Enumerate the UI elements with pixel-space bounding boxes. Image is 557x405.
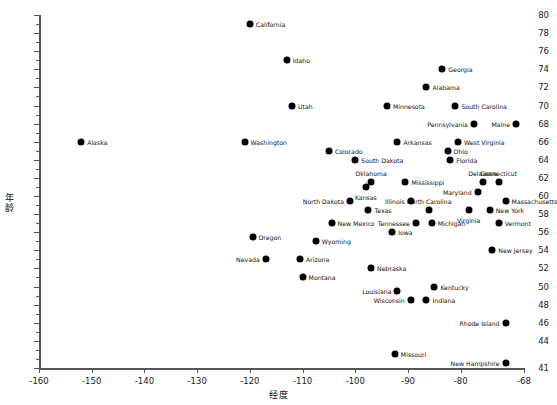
- scatter-point[interactable]: [495, 220, 502, 227]
- scatter-point[interactable]: [299, 274, 306, 281]
- y-tick-label: 54: [538, 245, 549, 255]
- scatter-point-label: Maine: [492, 120, 511, 127]
- scatter-point-label: South Carolina: [461, 102, 506, 109]
- x-tick-label: -90: [401, 376, 415, 386]
- scatter-point[interactable]: [502, 360, 509, 367]
- scatter-point[interactable]: [362, 183, 369, 190]
- scatter-point-label: New Hampshire: [451, 360, 500, 367]
- scatter-point[interactable]: [447, 156, 454, 163]
- scatter-point[interactable]: [328, 220, 335, 227]
- scatter-point-label: Ohio: [454, 147, 468, 154]
- scatter-point[interactable]: [502, 319, 509, 326]
- scatter-point[interactable]: [470, 120, 477, 127]
- scatter-point[interactable]: [439, 66, 446, 73]
- y-tick-label: 78: [538, 28, 549, 38]
- scatter-point[interactable]: [246, 21, 253, 28]
- scatter-point[interactable]: [383, 102, 390, 109]
- y-tick-label: 48: [538, 300, 549, 310]
- scatter-point[interactable]: [452, 102, 459, 109]
- scatter-point[interactable]: [407, 297, 414, 304]
- scatter-point[interactable]: [455, 138, 462, 145]
- scatter-point-label: Illinois: [385, 197, 405, 204]
- x-tick: [250, 368, 251, 373]
- scatter-point-label: Rhode Island: [459, 319, 499, 326]
- scatter-point-label: Arizona: [306, 256, 329, 263]
- scatter-point-label: Missouri: [401, 351, 426, 358]
- x-tick: [92, 368, 93, 373]
- scatter-point[interactable]: [428, 220, 435, 227]
- scatter-point[interactable]: [365, 206, 372, 213]
- scatter-point[interactable]: [241, 138, 248, 145]
- scatter-point[interactable]: [495, 179, 502, 186]
- scatter-point[interactable]: [389, 229, 396, 236]
- scatter-point[interactable]: [312, 238, 319, 245]
- x-axis-title: 经度: [0, 388, 557, 401]
- x-tick: [197, 368, 198, 373]
- y-tick-label: 66: [538, 137, 549, 147]
- x-tick-label: -80: [454, 376, 468, 386]
- scatter-point-label: California: [256, 21, 285, 28]
- scatter-point[interactable]: [486, 206, 493, 213]
- scatter-point-label: Kansas: [355, 194, 377, 201]
- scatter-point[interactable]: [431, 283, 438, 290]
- y-tick-label: 64: [538, 155, 549, 165]
- x-tick-label: -160: [29, 376, 48, 386]
- scatter-point[interactable]: [394, 288, 401, 295]
- scatter-point[interactable]: [289, 102, 296, 109]
- scatter-point[interactable]: [368, 265, 375, 272]
- x-axis-line: [39, 368, 525, 370]
- scatter-point[interactable]: [412, 220, 419, 227]
- scatter-point[interactable]: [444, 147, 451, 154]
- scatter-point[interactable]: [474, 188, 481, 195]
- scatter-point-label: Oklahoma: [355, 170, 387, 177]
- scatter-point[interactable]: [479, 179, 486, 186]
- scatter-point-label: Indiana: [432, 297, 455, 304]
- scatter-point-label: Nebraska: [377, 265, 406, 272]
- scatter-point-label: South Dakota: [361, 156, 403, 163]
- y-tick-label: 56: [538, 227, 549, 237]
- scatter-point[interactable]: [352, 156, 359, 163]
- scatter-point[interactable]: [262, 256, 269, 263]
- scatter-point[interactable]: [426, 206, 433, 213]
- scatter-point-label: Georgia: [448, 66, 472, 73]
- y-tick-label: 70: [538, 101, 549, 111]
- scatter-point[interactable]: [502, 197, 509, 204]
- scatter-point[interactable]: [283, 57, 290, 64]
- scatter-point-label: North Dakota: [303, 197, 344, 204]
- x-tick-label: -140: [135, 376, 154, 386]
- scatter-point[interactable]: [489, 247, 496, 254]
- scatter-point-label: Montana: [309, 274, 336, 281]
- scatter-point[interactable]: [249, 233, 256, 240]
- x-tick: [461, 368, 462, 373]
- scatter-point-label: New Jersey: [498, 247, 532, 254]
- scatter-point[interactable]: [423, 297, 430, 304]
- scatter-point-label: Alabama: [432, 84, 459, 91]
- scatter-point-label: Arkansas: [403, 138, 431, 145]
- y-tick-label: 41: [538, 363, 549, 373]
- scatter-point[interactable]: [402, 179, 409, 186]
- y-tick-label: 58: [538, 209, 549, 219]
- scatter-point[interactable]: [513, 120, 520, 127]
- scatter-point[interactable]: [391, 351, 398, 358]
- y-tick-label: 68: [538, 119, 549, 129]
- x-tick: [408, 368, 409, 373]
- scatter-point[interactable]: [78, 138, 85, 145]
- scatter-point[interactable]: [347, 197, 354, 204]
- x-tick-label: -68: [517, 376, 531, 386]
- scatter-point[interactable]: [465, 206, 472, 213]
- scatter-point-label: Colorado: [335, 147, 363, 154]
- scatter-point-label: Idaho: [293, 57, 310, 64]
- scatter-point-label: Wyoming: [322, 238, 351, 245]
- y-tick-label: 52: [538, 263, 549, 273]
- scatter-point-label: Wisconsin: [374, 297, 405, 304]
- scatter-point-label: Mississippi: [411, 179, 444, 186]
- scatter-point[interactable]: [394, 138, 401, 145]
- x-tick: [524, 368, 525, 373]
- scatter-point[interactable]: [296, 256, 303, 263]
- scatter-point-label: New Mexico: [338, 220, 375, 227]
- scatter-point[interactable]: [325, 147, 332, 154]
- scatter-point[interactable]: [423, 84, 430, 91]
- scatter-point-label: Massachusetts: [512, 197, 557, 204]
- scatter-point-label: Tennessee: [378, 220, 410, 227]
- x-tick-label: -100: [346, 376, 365, 386]
